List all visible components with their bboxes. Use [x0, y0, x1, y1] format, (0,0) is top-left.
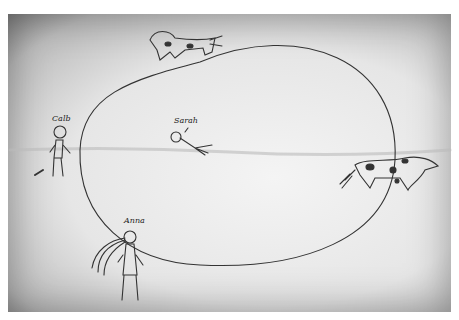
- label-calb: Calb: [52, 114, 71, 123]
- dog-top: [150, 32, 222, 61]
- label-anna: Anna: [124, 216, 145, 225]
- figure-anna: [92, 231, 143, 300]
- label-sarah: Sarah: [174, 116, 198, 125]
- drawing-strokes: [0, 0, 459, 320]
- figure-calb: [35, 126, 70, 176]
- dog-right: [340, 157, 438, 190]
- drawing-canvas: Calb Sarah Anna: [0, 0, 459, 320]
